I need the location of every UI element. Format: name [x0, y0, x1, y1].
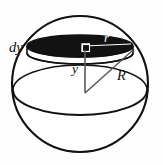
slab-top-face — [27, 35, 133, 57]
sphere-disk-diagram: dy r y R — [0, 0, 163, 165]
diagram-canvas: dy r y R — [0, 0, 163, 165]
label-dy: dy — [9, 39, 23, 55]
label-R: R — [116, 67, 126, 83]
right-angle-square — [83, 45, 90, 52]
label-y: y — [70, 61, 78, 76]
